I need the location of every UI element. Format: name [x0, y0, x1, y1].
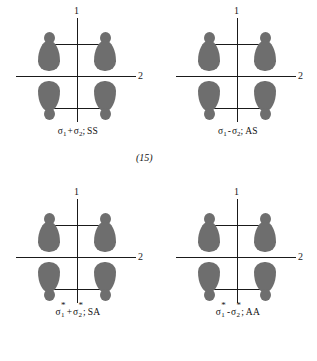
orbital-caption: σ*1-σ*2;AA: [168, 307, 308, 317]
orbital-lobe-cap-bottom: [44, 108, 55, 120]
orbital-panel-sigma1-plus-sigma2: 1 2 σ1+σ2;SS: [8, 2, 148, 152]
horizontal-axis-label: 2: [138, 71, 143, 81]
orbital-diagram: 1 2: [168, 2, 308, 124]
orbital-lobe-cap-bottom: [260, 289, 271, 301]
sigma-left: σ: [56, 307, 61, 317]
orbital-diagram: 1 2: [8, 183, 148, 305]
orbital-lobe-upper: [198, 41, 220, 71]
orbital-stack-right: [92, 32, 118, 120]
orbital-caption: σ1+σ2;SS: [8, 126, 148, 138]
sigma-left-star: *: [61, 301, 66, 310]
orbital-stack-left: [36, 213, 62, 301]
orbital-lobe-lower: [254, 81, 276, 111]
orbital-lobe-upper: [94, 41, 116, 71]
orbital-lobe-upper: [38, 41, 60, 71]
orbital-panel-sigma1star-plus-sigma2star: 1 2 σ*1+σ*2;SA: [8, 183, 148, 333]
orbital-lobe-upper: [254, 41, 276, 71]
orbital-caption: σ*1+σ*2;SA: [8, 307, 148, 317]
vertical-axis: [77, 199, 78, 303]
orbital-figure-16: 1 2 σ*1+σ*2;SA 1 2: [0, 181, 317, 361]
vertical-axis: [77, 18, 78, 122]
vertical-axis: [237, 199, 238, 303]
symmetry-label: AS: [243, 126, 258, 136]
sigma-right-subscript: 2: [237, 312, 241, 320]
orbital-panel-sigma1star-minus-sigma2star: 1 2 σ*1-σ*2;AA: [168, 183, 308, 333]
horizontal-axis: [16, 76, 136, 77]
sigma-right: σ: [231, 307, 236, 317]
orbital-stack-left: [196, 213, 222, 301]
sigma-left-star: *: [221, 301, 226, 310]
sigma-right-subscript: 2: [78, 312, 82, 320]
orbital-lobe-lower: [94, 81, 116, 111]
horizontal-axis: [16, 257, 136, 258]
horizontal-axis: [176, 76, 296, 77]
sigma-left-starred: σ*1: [56, 307, 66, 317]
orbital-lobe-cap-bottom: [204, 108, 215, 120]
sigma-left: σ: [216, 307, 221, 317]
vertical-axis-label: 1: [234, 6, 239, 16]
orbital-lobe-upper: [198, 222, 220, 252]
combination-operator: +: [66, 307, 73, 317]
sigma-right-star: *: [78, 301, 83, 310]
orbital-stack-left: [36, 32, 62, 120]
orbital-panel-sigma1-minus-sigma2: 1 2 σ1-σ2;AS: [168, 2, 308, 152]
horizontal-axis-label: 2: [138, 252, 143, 262]
sigma-right: σ: [73, 307, 78, 317]
orbital-stack-right: [92, 213, 118, 301]
orbital-stack-right: [252, 32, 278, 120]
vertical-axis: [237, 18, 238, 122]
combination-operator: +: [66, 126, 73, 136]
orbital-lobe-lower: [198, 262, 220, 292]
horizontal-axis-label: 2: [298, 71, 303, 81]
orbital-lobe-lower: [254, 262, 276, 292]
symmetry-label: AA: [244, 307, 260, 317]
orbital-caption: σ1-σ2;AS: [168, 126, 308, 138]
sigma-left-starred: σ*1: [216, 307, 226, 317]
orbital-lobe-lower: [94, 262, 116, 292]
orbital-lobe-upper: [38, 222, 60, 252]
orbital-lobe-cap-bottom: [260, 108, 271, 120]
sigma-left-subscript: 1: [221, 312, 225, 320]
orbital-lobe-cap-bottom: [44, 289, 55, 301]
orbital-diagram: 1 2: [8, 2, 148, 124]
orbital-stack-left: [196, 32, 222, 120]
horizontal-axis-label: 2: [298, 252, 303, 262]
vertical-axis-label: 1: [74, 187, 79, 197]
vertical-axis-label: 1: [234, 187, 239, 197]
orbital-stack-right: [252, 213, 278, 301]
orbital-lobe-lower: [198, 81, 220, 111]
sigma-right-star: *: [237, 301, 242, 310]
symmetry-label: SS: [85, 126, 98, 136]
orbital-figure-15: 1 2 σ1+σ2;SS 1 2: [0, 0, 317, 180]
sigma-right-starred: σ*2: [231, 307, 241, 317]
sigma-right-starred: σ*2: [73, 307, 83, 317]
equation-number: (15): [136, 152, 153, 163]
horizontal-axis: [176, 257, 296, 258]
sigma-left-subscript: 1: [61, 312, 65, 320]
orbital-lobe-lower: [38, 81, 60, 111]
orbital-diagram: 1 2: [168, 183, 308, 305]
orbital-lobe-cap-bottom: [100, 108, 111, 120]
orbital-lobe-cap-bottom: [204, 289, 215, 301]
orbital-lobe-lower: [38, 262, 60, 292]
vertical-axis-label: 1: [74, 6, 79, 16]
symmetry-label: SA: [86, 307, 101, 317]
orbital-lobe-cap-bottom: [100, 289, 111, 301]
orbital-lobe-upper: [94, 222, 116, 252]
orbital-lobe-upper: [254, 222, 276, 252]
